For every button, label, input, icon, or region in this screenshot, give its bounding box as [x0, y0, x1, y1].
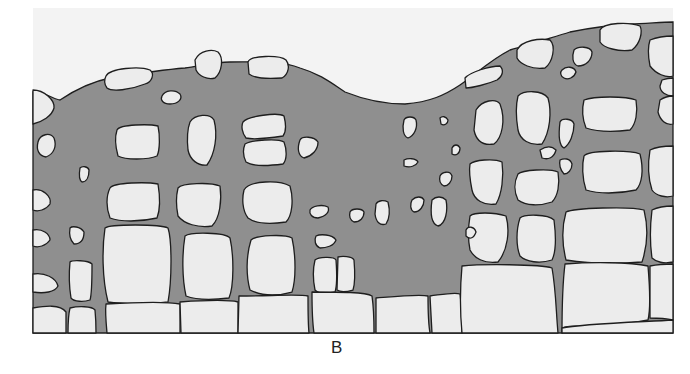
block [68, 307, 96, 333]
block [452, 145, 460, 155]
block [238, 295, 309, 333]
block [337, 256, 355, 291]
block [180, 301, 238, 334]
figure-container: B [0, 0, 690, 374]
block [70, 227, 84, 244]
block [649, 146, 673, 197]
block [469, 213, 508, 262]
block [312, 292, 374, 333]
block [243, 182, 292, 223]
block [69, 261, 92, 302]
block [517, 39, 553, 68]
block [247, 236, 295, 295]
block [430, 293, 462, 333]
block [161, 91, 180, 104]
block [187, 115, 215, 165]
block [600, 23, 641, 50]
block [376, 295, 430, 333]
block [515, 170, 559, 205]
block [440, 117, 448, 125]
block [461, 265, 559, 333]
block [517, 92, 551, 145]
block [106, 303, 180, 334]
block [33, 306, 66, 333]
block [563, 208, 647, 263]
block [517, 215, 555, 262]
panel-label: B [331, 338, 342, 358]
block [183, 233, 233, 299]
block [583, 151, 642, 193]
cross-section-diagram [0, 0, 690, 374]
block [195, 51, 222, 79]
block [242, 114, 285, 138]
block [107, 183, 159, 221]
block [177, 184, 221, 227]
block [375, 201, 389, 225]
block [116, 125, 160, 159]
block [650, 264, 673, 320]
block [583, 97, 637, 131]
block [474, 101, 503, 145]
block [651, 206, 674, 263]
block [248, 56, 288, 78]
block [103, 225, 171, 304]
block [314, 257, 337, 293]
block [244, 140, 287, 165]
